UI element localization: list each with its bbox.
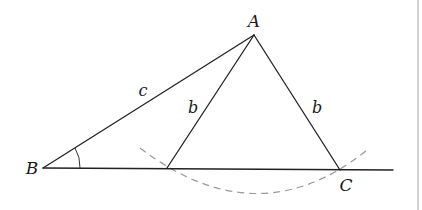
side-b-left xyxy=(167,35,254,168)
vertex-label-b: B xyxy=(25,158,39,178)
triangle-diagram: A B C c b b xyxy=(0,0,422,210)
angle-b-mark xyxy=(75,148,80,168)
side-label-b-left: b xyxy=(188,98,198,117)
vertex-label-a: A xyxy=(246,11,260,31)
radius-b-arc xyxy=(140,148,367,194)
vertex-label-c: C xyxy=(339,175,352,195)
side-b-right xyxy=(254,35,340,170)
side-label-b-right: b xyxy=(312,98,322,117)
side-c xyxy=(43,35,254,168)
side-label-c: c xyxy=(139,81,148,100)
